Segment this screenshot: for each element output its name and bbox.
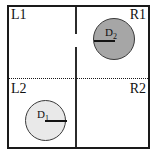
disk-d1-label-base: D	[37, 108, 45, 120]
quadrant-label-l1: L1	[11, 8, 27, 22]
quadrant-label-r1: R1	[130, 8, 146, 22]
disk-d1-label: D1	[37, 109, 49, 123]
quadrant-label-l2: L2	[11, 82, 27, 96]
disk-d2-label-base: D	[105, 26, 113, 38]
disk-d2-label-subscript: 2	[113, 32, 117, 41]
vertical-divider-upper-segment	[75, 7, 77, 34]
figure-container: L1 R1 L2 R2 D2 D1	[0, 0, 157, 164]
quadrant-label-r2: R2	[130, 82, 146, 96]
disk-d2-label: D2	[105, 27, 117, 41]
horizontal-dotted-divider	[9, 78, 148, 79]
disk-d1-label-subscript: 1	[45, 114, 49, 123]
vertical-divider-lower-segment	[75, 47, 77, 147]
